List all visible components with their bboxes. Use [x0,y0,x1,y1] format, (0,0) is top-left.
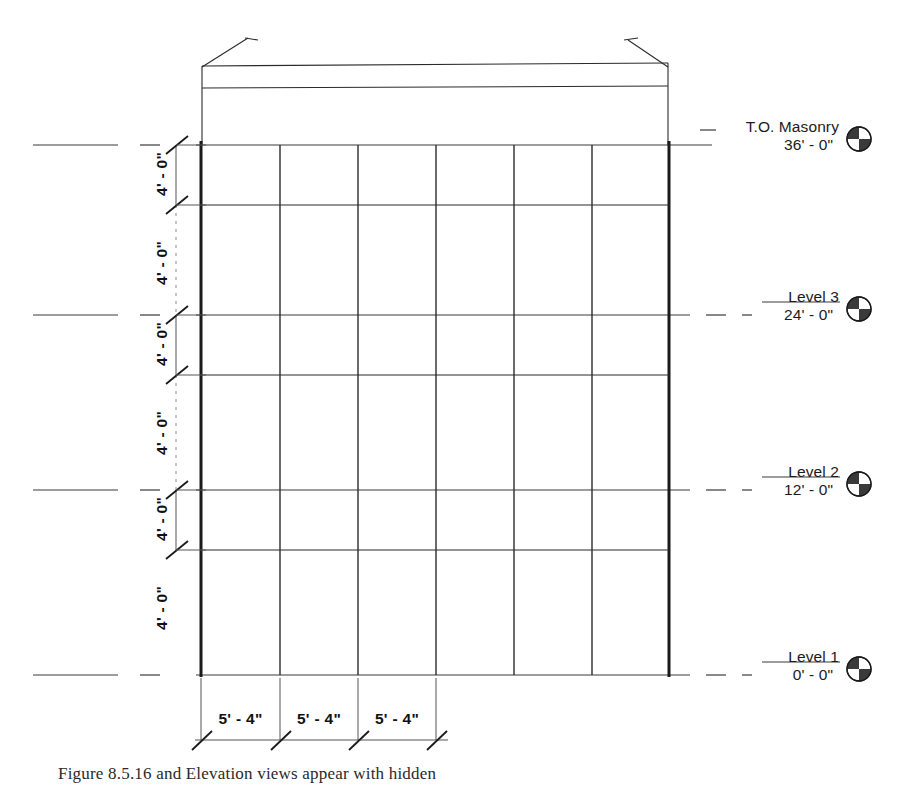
vertical-dimension-text[interactable]: 4' - 0" [153,322,171,366]
facade-mullions [280,145,592,675]
level-name: T.O. Masonry [746,118,839,136]
horizontal-dimension-text[interactable]: 5' - 4" [358,710,436,728]
level-elevation: 12' - 0" [784,481,833,499]
figure-caption-text: and Elevation views appear with hidden [156,764,436,783]
vertical-dimension-text[interactable]: 4' - 0" [153,586,171,630]
datum-line-to-masonry [33,130,716,145]
vertical-dimension-text[interactable]: 4' - 0" [153,241,171,285]
level-datum-icon [846,656,872,682]
level-elevation: 36' - 0" [784,136,833,154]
vertical-dimension-text[interactable]: 4' - 0" [153,411,171,455]
roof-parapet-group [202,38,668,145]
facade-spandrels [201,205,669,550]
level-name: Level 3 [788,288,839,306]
figure-caption-number: Figure 8.5.16 [58,764,152,783]
level-elevation: 24' - 0" [784,306,833,324]
figure-caption: Figure 8.5.16 and Elevation views appear… [58,764,436,784]
level-datum-icon [846,126,872,152]
level-datum-icon [846,471,872,497]
level-name: Level 2 [788,463,839,481]
horizontal-dimension-text[interactable]: 5' - 4" [201,710,280,728]
level-name: Level 1 [788,648,839,666]
level-elevation: 0' - 0" [793,666,833,684]
vertical-dimension-text[interactable]: 4' - 0" [153,152,171,196]
horizontal-dimension-text[interactable]: 5' - 4" [280,710,358,728]
building-outline [201,141,669,677]
elevation-drawing-canvas: T.O. Masonry 36' - 0" Level 3 24' - 0" L… [0,0,912,786]
vertical-dimension-text[interactable]: 4' - 0" [153,497,171,541]
level-datum-icon [846,296,872,322]
